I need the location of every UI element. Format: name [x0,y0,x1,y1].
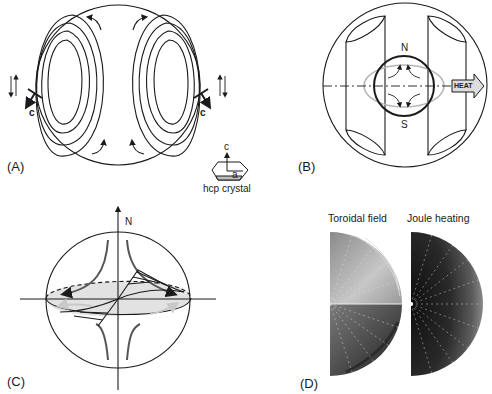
flow-arrow-icon [132,141,144,154]
c-axis-label-right: c [200,108,206,118]
left-convection-cell [36,15,103,156]
panel-d [330,232,483,376]
pole-north-b: N [401,43,408,53]
figure-canvas [0,0,492,394]
shear-arrows-left-icon [11,76,16,96]
panel-label-d: (D) [300,377,318,390]
joule-heating-plot [409,232,483,376]
right-convection-cell [133,15,200,156]
panel-label-c: (C) [7,375,25,388]
crystal-c-label: c [224,142,229,152]
flow-arrow-icon [133,17,146,30]
heat-arrow-label: HEAT [454,82,473,89]
c-axis-right-icon [194,89,209,106]
c-axis-left-icon [27,89,42,106]
toroidal-field-plot [330,232,402,376]
joule-heating-title: Joule heating [407,212,469,224]
inner-core-outline [36,5,200,165]
crystal-a-label: a [232,170,238,180]
pole-north-c: N [125,217,132,227]
panel-label-b: (B) [298,160,315,173]
flow-arrow-icon [92,141,104,154]
c-axis-label-left: c [29,108,35,118]
crystal-caption: hcp crystal [203,184,251,194]
hcp-crystal-icon [212,154,248,180]
toroidal-field-title: Toroidal field [328,212,387,224]
panel-label-a: (A) [7,160,24,173]
panel-c [20,208,216,390]
tangent-cylinder-left [346,16,385,155]
pole-south-b: S [401,120,408,130]
panel-a [11,5,248,180]
shear-arrows-right-icon [220,76,225,96]
